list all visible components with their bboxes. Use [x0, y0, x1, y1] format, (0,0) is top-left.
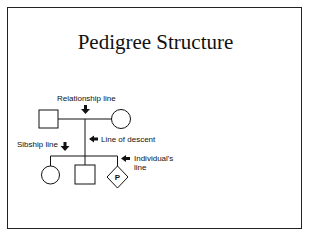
sibship-arrow-icon	[61, 142, 70, 151]
pedigree-diagram: P Relationship line Line of descent Sibs…	[0, 0, 311, 237]
descent-arrow-icon	[89, 136, 98, 143]
mother-circle	[112, 110, 131, 129]
relationship-arrow-icon	[81, 105, 90, 114]
individuals-arrow-icon	[121, 155, 130, 162]
individuals-line-label-1: Individual's	[134, 154, 173, 163]
individuals-line-label-2: line	[134, 163, 147, 172]
child-male-square	[75, 165, 95, 184]
line-of-descent-label: Line of descent	[101, 135, 156, 144]
proband-marker: P	[115, 173, 121, 182]
child-female-circle	[42, 166, 60, 184]
relationship-line-label: Relationship line	[57, 94, 116, 103]
father-square	[39, 110, 58, 128]
sibship-line-label: Sibship line	[17, 140, 58, 149]
